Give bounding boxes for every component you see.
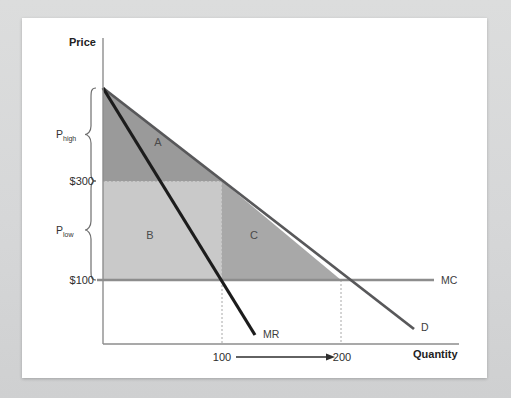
brace-p-low [85,181,96,280]
y-tick-300: $300 [70,175,94,187]
x-tick-100: 100 [213,351,231,363]
curve-label-mc: MC [441,274,458,286]
region-label-c: C [250,229,258,241]
brace-p-low-letter: P [56,224,63,236]
region-b-shape [103,181,222,280]
region-label-b: B [146,229,153,241]
brace-label-p-high: Phigh [56,128,76,143]
curve-label-mr: MR [263,328,280,340]
brace-p-low-subscript: low [63,231,74,238]
y-axis-label: Price [69,36,96,48]
region-c-shape [222,181,341,280]
brace-p-high-letter: P [56,128,63,140]
figure-card: Price Quantity $300 $100 100 200 Phigh P… [22,18,487,378]
y-tick-100: $100 [70,274,94,286]
x-tick-200: 200 [333,351,351,363]
price-discrimination-chart: Price Quantity $300 $100 100 200 Phigh P… [22,18,487,378]
brace-p-high [85,88,96,181]
x-axis-label: Quantity [413,348,458,360]
region-label-a: A [154,136,162,148]
curve-label-d: D [421,321,429,333]
brace-label-p-low: Plow [56,224,74,238]
brace-p-high-subscript: high [63,135,76,143]
